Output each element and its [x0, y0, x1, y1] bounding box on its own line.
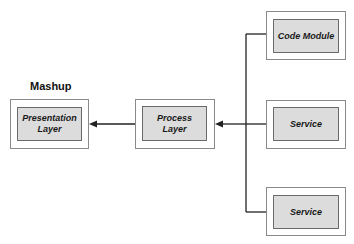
process-layer-label-line1: Process: [157, 113, 192, 124]
service-2-box: Service: [273, 195, 339, 229]
code-module-box: Code Module: [273, 19, 339, 53]
process-layer-box: Process Layer: [142, 106, 207, 141]
mashup-label: Mashup: [30, 80, 72, 92]
presentation-layer-label-line2: Layer: [22, 124, 77, 135]
arrowhead-process-icon: [215, 121, 223, 128]
presentation-layer-label-line1: Presentation: [22, 113, 77, 124]
process-layer-label-line2: Layer: [157, 124, 192, 135]
service-1-box: Service: [273, 107, 339, 141]
presentation-layer-box: Presentation Layer: [17, 107, 82, 141]
arrowhead-presentation-icon: [89, 121, 97, 128]
